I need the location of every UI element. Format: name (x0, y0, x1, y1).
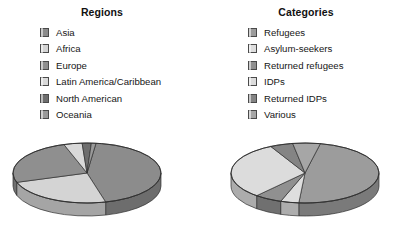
legend-item-label: Africa (56, 43, 81, 54)
legend-item-returned-idps[interactable]: Returned IDPs (248, 92, 343, 105)
legend-item-label: Returned refugees (264, 60, 343, 71)
legend-item-label: IDPs (264, 76, 285, 87)
legend-item-asylum-seekers[interactable]: Asylum-seekers (248, 42, 343, 55)
pie-chart-regions-svg (0, 128, 204, 228)
legend-item-asia[interactable]: Asia (40, 26, 161, 39)
legend-categories: Refugees Asylum-seekers Returned refugee… (248, 26, 343, 121)
legend-swatch-icon (40, 28, 49, 37)
legend-item-label: Refugees (264, 27, 305, 38)
legend-swatch-icon (40, 61, 49, 70)
legend-item-africa[interactable]: Africa (40, 42, 161, 55)
legend-item-refugees[interactable]: Refugees (248, 26, 343, 39)
legend-swatch-icon (40, 44, 49, 53)
legend-swatch-icon (40, 110, 49, 119)
legend-item-latin-america-caribbean[interactable]: Latin America/Caribbean (40, 75, 161, 88)
legend-item-label: North American (56, 93, 122, 104)
legend-item-various[interactable]: Various (248, 108, 343, 121)
page-title-regions: Regions (0, 6, 204, 18)
chart-panel-categories: Categories Refugees Asylum-seekers Retur… (204, 0, 408, 228)
legend-swatch-icon (248, 44, 257, 53)
legend-item-returned-refugees[interactable]: Returned refugees (248, 59, 343, 72)
legend-swatch-icon (40, 77, 49, 86)
legend-item-label: Europe (56, 60, 87, 71)
page-title-categories: Categories (204, 6, 408, 18)
legend-item-idps[interactable]: IDPs (248, 75, 343, 88)
legend-item-label: Latin America/Caribbean (56, 76, 161, 87)
chart-page: Regions Asia Africa Europe Latin America… (0, 0, 408, 228)
legend-swatch-icon (248, 77, 257, 86)
pie-chart-categories (204, 128, 408, 228)
legend-swatch-icon (248, 61, 257, 70)
legend-swatch-icon (248, 94, 257, 103)
legend-item-label: Oceania (56, 109, 92, 120)
legend-item-label: Various (264, 109, 296, 120)
legend-item-europe[interactable]: Europe (40, 59, 161, 72)
legend-swatch-icon (40, 94, 49, 103)
legend-item-label: Asylum-seekers (264, 43, 332, 54)
pie-chart-categories-svg (204, 128, 408, 228)
chart-panel-regions: Regions Asia Africa Europe Latin America… (0, 0, 204, 228)
legend-swatch-icon (248, 28, 257, 37)
pie-slice-side (281, 201, 299, 216)
legend-regions: Asia Africa Europe Latin America/Caribbe… (40, 26, 161, 121)
legend-item-oceania[interactable]: Oceania (40, 108, 161, 121)
legend-swatch-icon (248, 110, 257, 119)
pie-chart-regions (0, 128, 204, 228)
legend-item-label: Asia (56, 27, 75, 38)
legend-item-north-american[interactable]: North American (40, 92, 161, 105)
legend-item-label: Returned IDPs (264, 93, 327, 104)
